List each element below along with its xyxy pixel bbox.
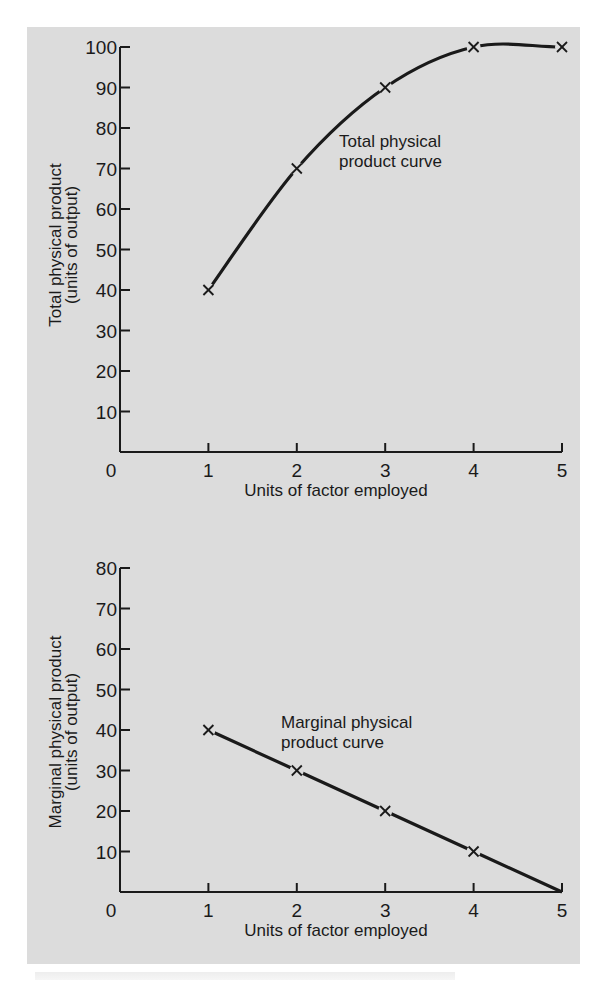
x-axis-title: Units of factor employed	[244, 481, 427, 500]
x-tick-label: 3	[380, 460, 391, 481]
y-tick-label: 80	[96, 558, 117, 579]
x-tick-label: 1	[203, 900, 214, 921]
curve-annotation-line: Total physical	[339, 132, 441, 151]
y-tick-label: 90	[96, 78, 117, 99]
y-tick-label: 30	[96, 761, 117, 782]
curve-annotation-line: product curve	[339, 152, 442, 171]
y-tick-label: 100	[85, 37, 117, 58]
x-tick-label: 0	[106, 460, 117, 481]
chart-marginal-product: 1020304050607080012345Units of factor em…	[46, 558, 567, 940]
y-tick-label: 80	[96, 118, 117, 139]
y-tick-label: 70	[96, 159, 117, 180]
caption-fragment	[35, 972, 455, 980]
y-tick-label: 60	[96, 639, 117, 660]
y-tick-label: 70	[96, 599, 117, 620]
x-tick-label: 2	[292, 900, 303, 921]
curve-annotation-line: Marginal physical	[281, 713, 412, 732]
y-tick-label: 40	[96, 720, 117, 741]
x-tick-label: 1	[203, 460, 214, 481]
y-axis-title-line: (units of output)	[62, 673, 81, 791]
y-tick-label: 40	[96, 280, 117, 301]
y-axis-title-line: (units of output)	[62, 186, 81, 304]
curve-annotation-line: product curve	[281, 733, 384, 752]
y-tick-label: 10	[96, 842, 117, 863]
y-tick-label: 10	[96, 402, 117, 423]
y-tick-label: 30	[96, 321, 117, 342]
y-tick-label: 60	[96, 199, 117, 220]
x-tick-label: 5	[557, 900, 568, 921]
y-tick-label: 50	[96, 240, 117, 261]
chart-total-product: 102030405060708090100012345Units of fact…	[46, 37, 569, 500]
x-tick-label: 4	[468, 460, 479, 481]
y-tick-label: 20	[96, 361, 117, 382]
figure-svg: 102030405060708090100012345Units of fact…	[0, 0, 601, 981]
x-tick-label: 5	[557, 460, 568, 481]
x-tick-label: 0	[106, 900, 117, 921]
x-axis-title: Units of factor employed	[244, 921, 427, 940]
y-tick-label: 50	[96, 680, 117, 701]
x-tick-label: 3	[380, 900, 391, 921]
x-tick-label: 4	[468, 900, 479, 921]
x-tick-label: 2	[292, 460, 303, 481]
y-tick-label: 20	[96, 801, 117, 822]
